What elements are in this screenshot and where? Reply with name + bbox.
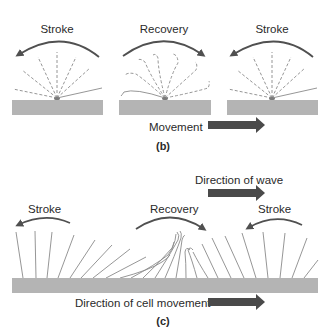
cilia-row	[16, 231, 318, 278]
panel-b-cell-stroke-left: Stroke	[12, 23, 103, 115]
stroke-label: Stroke	[40, 23, 73, 35]
recovery-arc-arrow-icon	[136, 218, 204, 230]
cilia-fan	[13, 52, 102, 98]
basal-body	[162, 97, 168, 100]
cell-movement-arrow-icon	[208, 294, 265, 310]
panel-c: Direction of wave Stroke Recovery Stroke	[12, 174, 318, 327]
stroke-label: Stroke	[255, 23, 288, 35]
recovery-label: Recovery	[150, 203, 199, 215]
recovery-label: Recovery	[140, 23, 189, 35]
movement-arrow-icon	[208, 117, 265, 133]
basal-body	[54, 97, 60, 100]
stroke-arc-arrow-icon	[232, 41, 313, 57]
panel-b: Stroke Recovery	[12, 23, 318, 152]
direction-of-cell-movement-label: Direction of cell movement	[75, 297, 211, 309]
basal-body	[269, 97, 275, 100]
stroke-right-label: Stroke	[258, 203, 291, 215]
movement-label: Movement	[149, 121, 203, 133]
stroke-arc-arrow-icon	[18, 41, 99, 57]
cell-surface	[12, 100, 103, 115]
wave-direction-arrow-icon	[208, 185, 265, 201]
stroke-left-label: Stroke	[28, 203, 61, 215]
panel-c-caption: (c)	[156, 315, 170, 327]
cilia-fan	[228, 52, 317, 98]
stroke-right-arc-arrow-icon	[248, 219, 302, 228]
cell-surface	[227, 100, 318, 115]
cilia-beat-diagram: Stroke Recovery	[0, 0, 325, 327]
cell-surface	[12, 278, 318, 293]
direction-of-wave-label: Direction of wave	[195, 174, 283, 186]
stroke-left-arc-arrow-icon	[18, 218, 70, 225]
cilia-recovery-curves	[121, 54, 209, 98]
panel-b-cell-recovery: Recovery	[119, 23, 211, 115]
cell-surface	[119, 100, 211, 115]
recovery-arc-arrow-icon	[123, 41, 203, 56]
panel-b-caption: (b)	[156, 140, 170, 152]
panel-b-cell-stroke-right: Stroke	[227, 23, 318, 115]
